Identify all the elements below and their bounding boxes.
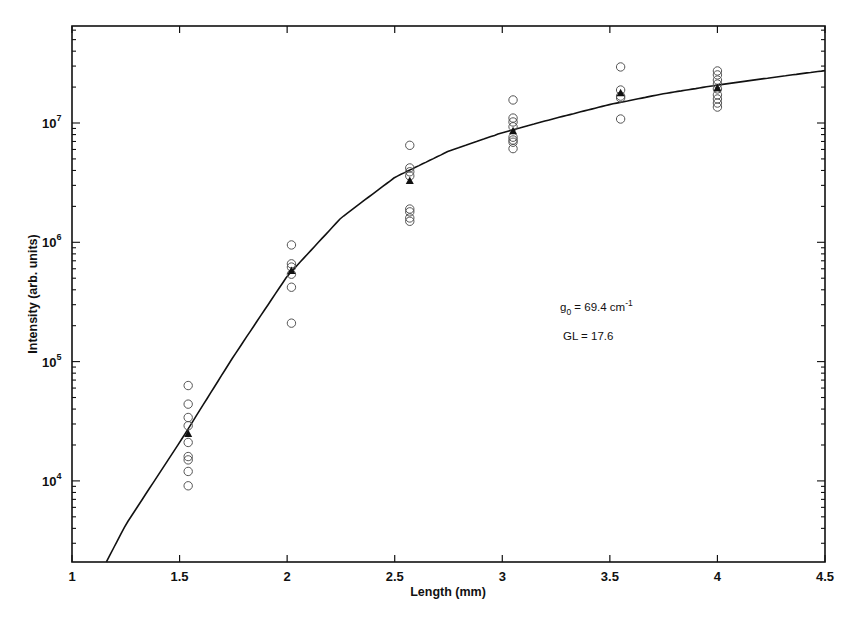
chart-canvas: 11.522.533.544.5 104105106107 Length (mm… (0, 0, 852, 619)
data-point (184, 381, 192, 389)
data-point (616, 115, 624, 123)
x-tick-label: 4.5 (816, 569, 834, 584)
x-tick-label: 3 (499, 569, 506, 584)
data-points (184, 63, 722, 490)
y-tick-label: 106 (42, 232, 61, 250)
y-tick-label: 107 (42, 113, 61, 131)
y-tick-labels: 104105106107 (42, 113, 61, 489)
fit-line (106, 71, 825, 562)
y-axis-title: Intensity (arb. units) (26, 234, 40, 353)
plot-border (72, 26, 825, 562)
x-tick-label: 1.5 (171, 569, 189, 584)
mean-markers (184, 84, 721, 437)
x-tick-label: 2.5 (386, 569, 404, 584)
data-point (184, 467, 192, 475)
fit-curve (106, 71, 825, 562)
x-tick-label: 2 (284, 569, 291, 584)
gl-annotation: GL = 17.6 (563, 330, 613, 342)
data-point (287, 283, 295, 291)
y-tick-label: 105 (42, 352, 61, 370)
data-point (184, 413, 192, 421)
data-point (287, 241, 295, 249)
x-tick-label: 4 (714, 569, 722, 584)
x-tick-label: 1 (68, 569, 75, 584)
plot-frame (72, 26, 825, 562)
data-point (184, 482, 192, 490)
data-point (184, 438, 192, 446)
g0-annotation: g0 = 69.4 cm-1 (560, 298, 633, 317)
data-point (509, 96, 517, 104)
x-tick-labels: 11.522.533.544.5 (68, 569, 834, 584)
mean-triangle (406, 176, 414, 184)
data-point (184, 400, 192, 408)
data-point (616, 63, 624, 71)
data-point (287, 319, 295, 327)
x-axis-title: Length (mm) (410, 585, 486, 599)
y-tick-label: 104 (42, 471, 61, 489)
data-point (406, 141, 414, 149)
x-tick-label: 3.5 (601, 569, 619, 584)
axis-ticks (72, 26, 825, 562)
data-point (509, 144, 517, 152)
